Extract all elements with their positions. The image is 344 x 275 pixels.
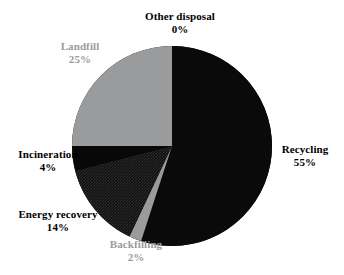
slice-label-energy-recovery-name: Energy recovery (18, 208, 97, 221)
slice-label-incineration-name: Incineration (18, 148, 77, 161)
slice-label-other-disposal-name: Other disposal (145, 10, 215, 23)
slice-label-recycling-value: 55% (282, 156, 329, 169)
slice-label-energy-recovery-value: 14% (18, 221, 97, 234)
slice-label-landfill-value: 25% (61, 53, 100, 66)
slice-label-backfilling-name: Backfilling (110, 238, 162, 251)
slice-label-recycling: Recycling 55% (282, 143, 329, 169)
pie-chart: Other disposal 0% Landfill 25% Recycling… (0, 0, 344, 275)
slice-label-other-disposal: Other disposal 0% (145, 10, 215, 36)
slice-label-landfill-name: Landfill (61, 40, 100, 53)
slice-label-backfilling-value: 2% (110, 251, 162, 264)
slice-label-energy-recovery: Energy recovery 14% (18, 208, 97, 234)
slice-label-backfilling: Backfilling 2% (110, 238, 162, 264)
slice-label-other-disposal-value: 0% (145, 23, 215, 36)
slice-label-recycling-name: Recycling (282, 143, 329, 156)
slice-label-landfill: Landfill 25% (61, 40, 100, 66)
slice-label-incineration-value: 4% (18, 161, 77, 174)
pie-slices (72, 46, 272, 246)
slice-label-incineration: Incineration 4% (18, 148, 77, 174)
